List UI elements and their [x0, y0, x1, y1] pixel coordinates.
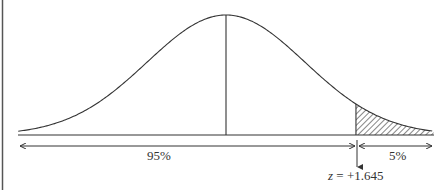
z-variable: z — [328, 168, 333, 183]
z-value: = +1.645 — [336, 168, 383, 183]
critical-region-shading — [356, 104, 434, 135]
label-95-percent: 95% — [147, 148, 171, 164]
label-5-percent: 5% — [389, 148, 406, 164]
normal-distribution-chart — [0, 0, 446, 190]
z-value-label: z = +1.645 — [328, 168, 383, 184]
